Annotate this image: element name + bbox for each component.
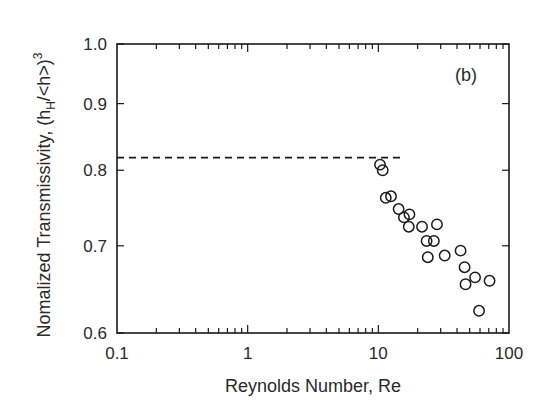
y-axis-title: Nomalized Transmissivity, (hH/<h>)3 — [31, 52, 58, 337]
y-tick-label: 0.8 — [83, 161, 107, 180]
data-point — [417, 222, 427, 232]
y-axis-title-superscript: 3 — [31, 52, 45, 59]
y-axis-title-main: Nomalized Transmissivity, (h — [34, 110, 54, 338]
y-tick-label: 1.0 — [83, 35, 107, 54]
x-axis-title: Reynolds Number, Re — [225, 376, 401, 396]
data-point — [459, 262, 469, 272]
x-tick-label: 100 — [495, 344, 523, 363]
x-axis-ticks: 0.1110100 — [105, 44, 523, 363]
y-axis-title-tail: /<h>) — [34, 59, 54, 101]
y-axis-title-subscript: H — [44, 101, 58, 110]
plot-border — [117, 44, 509, 333]
data-point — [484, 276, 494, 286]
data-point — [429, 236, 439, 246]
data-point — [439, 250, 449, 260]
data-point — [460, 279, 470, 289]
panel-label: (b) — [455, 65, 477, 85]
x-tick-label: 10 — [369, 344, 388, 363]
data-point — [474, 306, 484, 316]
data-point — [432, 219, 442, 229]
y-tick-label: 0.9 — [83, 95, 107, 114]
data-point — [423, 252, 433, 262]
data-point — [404, 222, 414, 232]
plot-frame — [117, 44, 509, 333]
x-tick-label: 0.1 — [105, 344, 129, 363]
data-point — [470, 272, 480, 282]
x-tick-label: 1 — [243, 344, 252, 363]
y-axis-ticks: 0.60.70.80.91.0 — [83, 35, 509, 343]
y-tick-label: 0.7 — [83, 237, 107, 256]
data-point — [455, 245, 465, 255]
data-points — [375, 159, 495, 316]
chart: 0.1110100 0.60.70.80.91.0 (b) Reynolds N… — [0, 0, 539, 415]
y-tick-label: 0.6 — [83, 324, 107, 343]
